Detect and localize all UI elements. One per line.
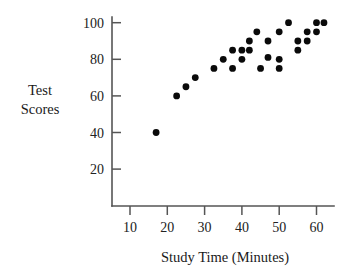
data-point bbox=[253, 28, 260, 35]
data-point bbox=[313, 28, 320, 35]
data-point bbox=[265, 54, 272, 61]
data-point bbox=[220, 56, 227, 63]
y-axis-tick-labels: 20406080100 bbox=[83, 16, 104, 177]
data-point bbox=[239, 56, 246, 63]
plot-canvas: 20406080100 102030405060 Study Time (Min… bbox=[0, 0, 352, 271]
scatter-plot-figure: 20406080100 102030405060 Study Time (Min… bbox=[0, 0, 352, 271]
data-point bbox=[229, 47, 236, 54]
data-points bbox=[153, 19, 328, 136]
x-tick-label: 20 bbox=[160, 220, 174, 235]
data-point bbox=[183, 83, 190, 90]
x-tick-label: 40 bbox=[235, 220, 249, 235]
data-point bbox=[276, 28, 283, 35]
y-tick-label: 80 bbox=[90, 52, 104, 67]
data-point bbox=[229, 65, 236, 72]
data-point bbox=[321, 19, 328, 26]
x-tick-label: 50 bbox=[272, 220, 286, 235]
data-point bbox=[246, 38, 253, 45]
y-tick-label: 40 bbox=[90, 126, 104, 141]
x-axis-tick-labels: 102030405060 bbox=[123, 220, 324, 235]
y-axis-title-line: Test bbox=[28, 82, 52, 98]
y-axis-title-line: Scores bbox=[21, 101, 60, 117]
tick-marks bbox=[112, 23, 317, 215]
data-point bbox=[192, 74, 199, 81]
data-point bbox=[239, 47, 246, 54]
data-point bbox=[246, 47, 253, 54]
data-point bbox=[265, 38, 272, 45]
data-point bbox=[294, 38, 301, 45]
data-point bbox=[173, 93, 180, 100]
x-tick-label: 10 bbox=[123, 220, 137, 235]
y-tick-label: 100 bbox=[83, 16, 104, 31]
data-point bbox=[304, 38, 311, 45]
data-point bbox=[304, 28, 311, 35]
data-point bbox=[294, 47, 301, 54]
x-tick-label: 60 bbox=[310, 220, 324, 235]
x-tick-label: 30 bbox=[198, 220, 212, 235]
y-tick-label: 20 bbox=[90, 162, 104, 177]
data-point bbox=[276, 56, 283, 63]
axes bbox=[112, 17, 334, 206]
data-point bbox=[276, 65, 283, 72]
data-point bbox=[285, 19, 292, 26]
data-point bbox=[313, 19, 320, 26]
x-axis-title: Study Time (Minutes) bbox=[161, 249, 289, 266]
axis-titles: Study Time (Minutes)TestScores bbox=[21, 82, 290, 266]
data-point bbox=[211, 65, 218, 72]
data-point bbox=[257, 65, 264, 72]
y-tick-label: 60 bbox=[90, 89, 104, 104]
data-point bbox=[153, 129, 160, 136]
